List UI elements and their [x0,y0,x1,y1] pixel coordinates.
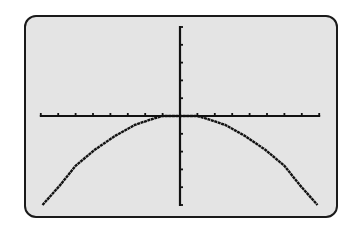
graph-plot [0,0,362,235]
